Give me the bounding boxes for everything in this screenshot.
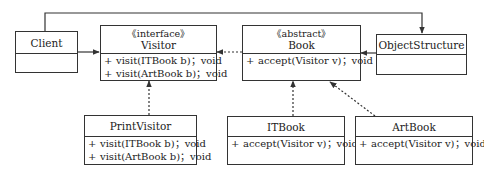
class-name: ITBook: [267, 121, 305, 133]
class-book: 《abstract》 Book +accept(Visitor v)；void: [242, 25, 361, 81]
operation: +visit(ArtBook b)；void: [104, 68, 213, 81]
operations: +accept(Visitor v)；void: [243, 54, 360, 80]
class-header: 《interface》 Visitor: [101, 26, 216, 54]
operation: +visit(ITBook b)；void: [88, 138, 193, 151]
class-visitor: 《interface》 Visitor +visit(ITBook b)；voi…: [100, 25, 217, 81]
class-header: ObjectStructure: [377, 35, 466, 55]
uml-diagram: Client 《interface》 Visitor +visit(ITBook…: [0, 0, 484, 179]
operation: +accept(Visitor v)；void: [246, 55, 357, 68]
class-header: 《abstract》 Book: [243, 26, 360, 54]
class-itbook: ITBook +accept(Visitor v)；void: [227, 116, 345, 165]
artbook-book-generalization: [330, 82, 375, 116]
operation: +visit(ArtBook b)；void: [88, 151, 193, 164]
class-name: ArtBook: [392, 121, 436, 133]
class-header: Client: [16, 32, 77, 54]
class-artbook: ArtBook +accept(Visitor v)；void: [355, 116, 473, 165]
class-header: ArtBook: [356, 117, 472, 137]
class-objectstructure: ObjectStructure: [376, 34, 467, 75]
class-printvisitor: PrintVisitor +visit(ITBook b)；void +visi…: [84, 115, 197, 165]
operation: +visit(ITBook b)；void: [104, 55, 213, 68]
class-name: Visitor: [141, 39, 176, 51]
class-client: Client: [15, 31, 78, 73]
class-name: PrintVisitor: [110, 120, 172, 132]
class-name: Book: [288, 39, 315, 51]
class-name: Client: [31, 37, 63, 49]
stereotype-label: 《interface》: [127, 28, 190, 39]
operations: +accept(Visitor v)；void: [228, 137, 344, 164]
operations: +accept(Visitor v)；void: [356, 137, 472, 164]
class-header: PrintVisitor: [85, 116, 196, 137]
operation: +accept(Visitor v)；void: [231, 138, 341, 151]
operations: +visit(ITBook b)；void +visit(ArtBook b)；…: [101, 54, 216, 80]
class-header: ITBook: [228, 117, 344, 137]
operations: +visit(ITBook b)；void +visit(ArtBook b)；…: [85, 137, 196, 164]
stereotype-label: 《abstract》: [272, 28, 332, 39]
class-name: ObjectStructure: [378, 39, 464, 51]
operation: +accept(Visitor v)；void: [359, 138, 469, 151]
